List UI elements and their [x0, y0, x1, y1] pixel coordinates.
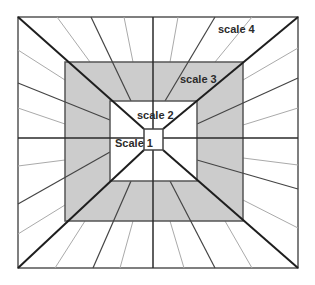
scale1-label: Scale 1 — [115, 137, 153, 149]
scale3-label: scale 3 — [180, 73, 217, 85]
scale2-label: scale 2 — [137, 109, 174, 121]
scale4-label: scale 4 — [218, 23, 256, 35]
nested-scales-diagram: scale 4 scale 3 scale 2 Scale 1 — [0, 0, 315, 285]
